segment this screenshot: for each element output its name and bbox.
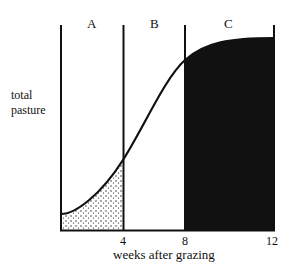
region-c-fill bbox=[185, 38, 274, 230]
y-axis-label-line1: total bbox=[11, 89, 32, 102]
region-b-label: B bbox=[150, 17, 159, 30]
region-c-label: C bbox=[224, 17, 233, 30]
region-a-stipple bbox=[61, 160, 123, 230]
region-a-label: A bbox=[87, 17, 96, 30]
pasture-growth-diagram bbox=[0, 0, 288, 269]
x-tick-12: 12 bbox=[266, 235, 278, 248]
y-axis-label-line2: pasture bbox=[11, 104, 46, 117]
x-axis-label: weeks after grazing bbox=[113, 248, 215, 261]
